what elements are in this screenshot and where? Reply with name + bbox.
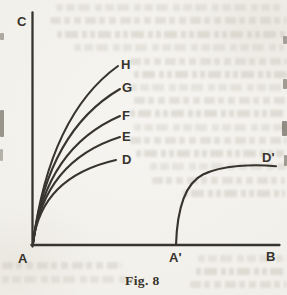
curve-label-h: H	[121, 58, 131, 72]
curve-label-g: G	[122, 81, 132, 95]
curve-H	[33, 66, 118, 243]
axis-label-c: C	[17, 15, 27, 29]
axis-label-b: B	[266, 250, 276, 264]
figure-caption: Fig. 8	[125, 273, 160, 289]
label-a-prime: A'	[169, 251, 182, 265]
curve-label-e: E	[122, 130, 131, 144]
curve-label-f: F	[122, 109, 130, 123]
curve-A-prime-to-D-prime	[176, 165, 276, 245]
label-d-prime: D'	[262, 151, 275, 165]
figure-8-diagram	[0, 0, 287, 295]
axis-label-a: A	[18, 252, 28, 266]
curve-label-d: D	[122, 153, 132, 167]
scanned-page: C H G F E D D' A A' B Fig. 8	[0, 0, 287, 295]
